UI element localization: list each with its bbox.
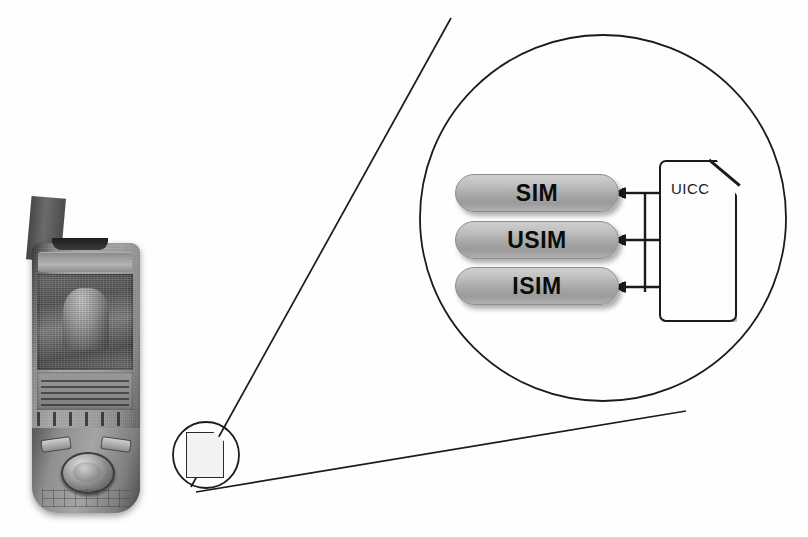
phone-hinge <box>52 238 108 250</box>
phone-number-keys <box>42 489 130 507</box>
phone-left-softkey <box>40 436 72 453</box>
usim-application-pill[interactable]: USIM <box>455 221 619 259</box>
phone-navigation-pad <box>61 452 115 494</box>
callout-line-upper <box>191 18 451 487</box>
mini-sim-card <box>186 432 224 478</box>
isim-application-pill[interactable]: ISIM <box>455 267 619 305</box>
mobile-phone-photo <box>26 196 148 516</box>
phone-screen-icon-row <box>37 412 133 426</box>
uicc-card: UICC <box>659 160 737 322</box>
uicc-card-chamfer <box>713 160 737 198</box>
phone-earpiece <box>38 252 132 272</box>
phone-keypad <box>32 428 140 513</box>
phone-screen-text-area <box>37 372 133 410</box>
phone-right-softkey <box>100 436 132 453</box>
diagram-canvas: UICC SIM USIM ISIM <box>0 0 808 537</box>
mini-sim-card-body <box>186 432 224 478</box>
phone-screen <box>37 274 133 370</box>
sim-application-pill[interactable]: SIM <box>455 174 619 212</box>
usim-application-label: USIM <box>507 229 567 252</box>
callout-line-lower <box>196 411 686 492</box>
sim-application-label: SIM <box>516 182 558 205</box>
isim-application-label: ISIM <box>512 275 561 298</box>
